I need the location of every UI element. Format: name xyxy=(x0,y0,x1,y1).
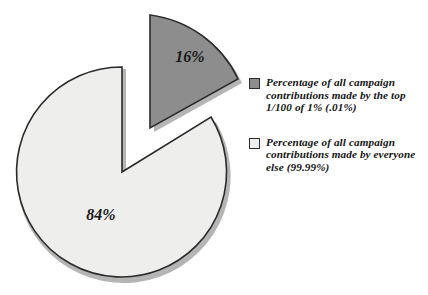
legend-line-2: contributions made by everyone xyxy=(266,148,415,160)
legend-line-1: Percentage of all campaign xyxy=(266,76,395,88)
legend-label-everyone-else: Percentage of all campaign contributions… xyxy=(266,136,415,174)
legend-line-2: contributions made by the top xyxy=(266,89,406,101)
legend-swatch-light-icon xyxy=(249,138,260,149)
legend-label-top-001-percent: Percentage of all campaign contributions… xyxy=(266,76,406,114)
slice-label-16: 16% xyxy=(175,48,204,65)
legend-item-top-001-percent[interactable]: Percentage of all campaign contributions… xyxy=(249,76,425,114)
pie-chart-figure: 16% 84% Percentage of all campaign contr… xyxy=(0,0,428,295)
legend-line-1: Percentage of all campaign xyxy=(266,136,395,148)
legend-line-3: 1/100 of 1% (.01%) xyxy=(266,101,357,113)
pie-slice-top-001-percent[interactable] xyxy=(150,15,238,128)
legend-swatch-dark-icon xyxy=(249,78,260,89)
legend-line-3: else (99.99%) xyxy=(266,161,329,173)
slice-label-84: 84% xyxy=(86,206,115,223)
legend: Percentage of all campaign contributions… xyxy=(249,76,425,196)
legend-item-everyone-else[interactable]: Percentage of all campaign contributions… xyxy=(249,136,425,174)
